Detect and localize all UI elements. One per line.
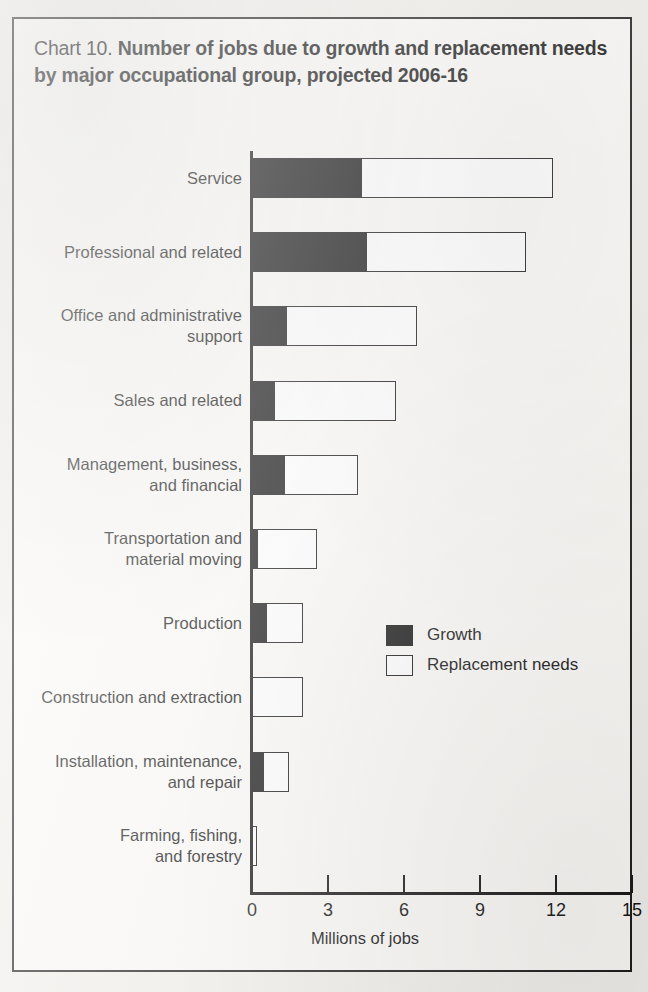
bar-row: Transportation andmaterial moving bbox=[14, 529, 634, 569]
x-axis-tick bbox=[251, 875, 253, 893]
legend-item[interactable]: Replacement needs bbox=[386, 650, 578, 680]
bar-segment-replacement[interactable] bbox=[286, 306, 416, 346]
bar-segment-replacement[interactable] bbox=[252, 826, 257, 866]
category-label: Management, business,and financial bbox=[27, 454, 242, 496]
legend-item[interactable]: Growth bbox=[386, 620, 578, 650]
x-axis-tick bbox=[327, 875, 329, 893]
bar-row: Management, business,and financial bbox=[14, 455, 634, 495]
bar-row: Sales and related bbox=[14, 381, 634, 421]
bar-segment-replacement[interactable] bbox=[263, 752, 288, 792]
bar-segment-growth[interactable] bbox=[252, 455, 284, 495]
bar-segment-replacement[interactable] bbox=[266, 603, 303, 643]
stacked-bar[interactable] bbox=[252, 158, 553, 198]
x-axis-tick-label: 6 bbox=[399, 900, 409, 921]
bar-row: Office and administrativesupport bbox=[14, 306, 634, 346]
x-axis-tick-label: 15 bbox=[622, 900, 642, 921]
bar-segment-growth[interactable] bbox=[252, 752, 263, 792]
chart-legend: GrowthReplacement needs bbox=[386, 620, 578, 680]
x-axis-line bbox=[250, 892, 632, 895]
legend-swatch-filled bbox=[386, 625, 413, 646]
x-axis-tick bbox=[479, 875, 481, 893]
bar-segment-growth[interactable] bbox=[252, 158, 361, 198]
category-label: Service bbox=[27, 168, 242, 189]
category-label: Sales and related bbox=[27, 390, 242, 411]
stacked-bar[interactable] bbox=[252, 529, 317, 569]
bar-segment-growth[interactable] bbox=[252, 381, 274, 421]
x-axis-tick bbox=[403, 875, 405, 893]
bar-row: Professional and related bbox=[14, 232, 634, 272]
scanned-page: Chart 10. Number of jobs due to growth a… bbox=[0, 0, 648, 992]
category-label: Transportation andmaterial moving bbox=[27, 528, 242, 570]
x-axis-tick bbox=[555, 875, 557, 893]
category-label: Construction and extraction bbox=[27, 687, 242, 708]
legend-swatch-hollow bbox=[386, 655, 413, 676]
bar-row: Installation, maintenance,and repair bbox=[14, 752, 634, 792]
bar-segment-growth[interactable] bbox=[252, 232, 366, 272]
category-label: Production bbox=[27, 613, 242, 634]
stacked-bar[interactable] bbox=[252, 455, 358, 495]
bar-segment-growth[interactable] bbox=[252, 306, 286, 346]
legend-label: Growth bbox=[427, 625, 482, 645]
bar-segment-replacement[interactable] bbox=[252, 677, 303, 717]
x-axis-tick-label: 0 bbox=[247, 900, 257, 921]
category-label: Office and administrativesupport bbox=[27, 305, 242, 347]
category-label: Professional and related bbox=[27, 242, 242, 263]
bar-segment-replacement[interactable] bbox=[257, 529, 317, 569]
category-label: Installation, maintenance,and repair bbox=[27, 751, 242, 793]
bar-segment-replacement[interactable] bbox=[366, 232, 526, 272]
bar-segment-growth[interactable] bbox=[252, 603, 266, 643]
stacked-bar[interactable] bbox=[252, 826, 257, 866]
x-axis-title: Millions of jobs bbox=[250, 929, 480, 948]
bar-segment-replacement[interactable] bbox=[284, 455, 359, 495]
bar-segment-replacement[interactable] bbox=[274, 381, 397, 421]
plot-area: 03691215 ServiceProfessional and related… bbox=[14, 19, 634, 970]
category-label: Farming, fishing,and forestry bbox=[27, 825, 242, 867]
chart-frame: Chart 10. Number of jobs due to growth a… bbox=[12, 17, 632, 972]
x-axis-tick-label: 3 bbox=[323, 900, 333, 921]
bar-row: Construction and extraction bbox=[14, 677, 634, 717]
x-axis-tick-label: 9 bbox=[475, 900, 485, 921]
x-axis-tick bbox=[631, 875, 633, 893]
stacked-bar[interactable] bbox=[252, 603, 303, 643]
stacked-bar[interactable] bbox=[252, 232, 526, 272]
bar-row: Farming, fishing,and forestry bbox=[14, 826, 634, 866]
x-axis-tick-label: 12 bbox=[546, 900, 566, 921]
legend-label: Replacement needs bbox=[427, 655, 578, 675]
stacked-bar[interactable] bbox=[252, 752, 289, 792]
stacked-bar[interactable] bbox=[252, 677, 303, 717]
stacked-bar[interactable] bbox=[252, 306, 417, 346]
bar-segment-replacement[interactable] bbox=[361, 158, 554, 198]
stacked-bar[interactable] bbox=[252, 381, 396, 421]
bar-row: Service bbox=[14, 158, 634, 198]
